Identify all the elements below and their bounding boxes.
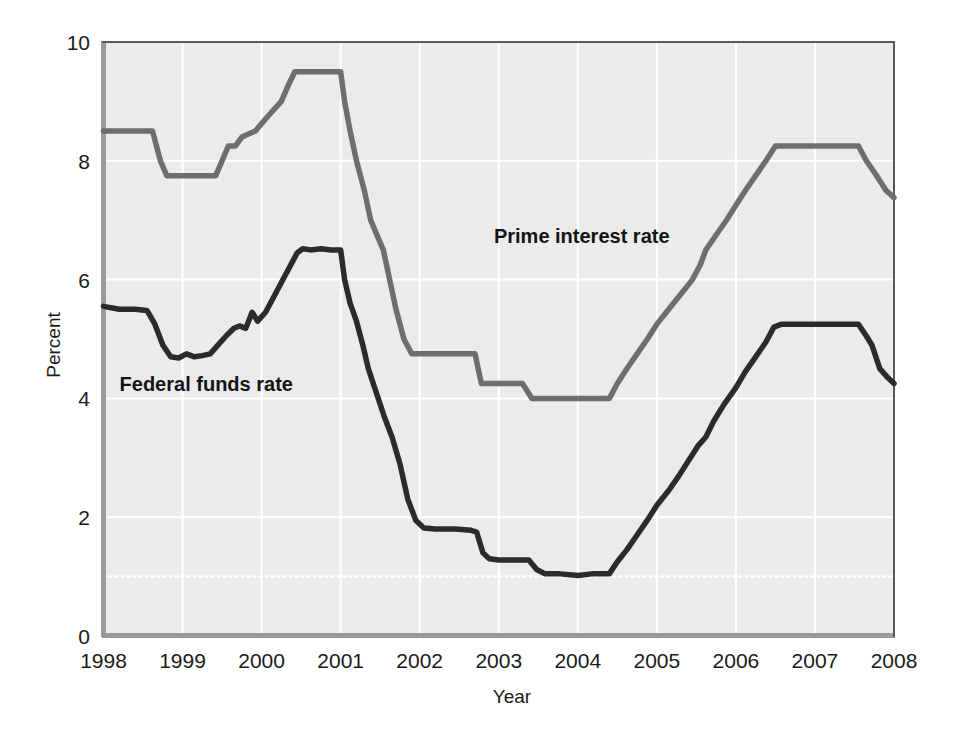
x-tick-label: 2001 [317,649,364,672]
interest-rates-line-chart: 0246810 19981999200020012002200320042005… [0,0,957,735]
y-tick-label: 6 [78,269,90,292]
y-tick-label: 10 [67,31,90,54]
x-tick-label: 2008 [871,649,918,672]
x-tick-label: 2004 [554,649,601,672]
x-tick-label: 2007 [792,649,839,672]
x-tick-label: 2002 [396,649,443,672]
x-tick-label: 1998 [80,649,127,672]
x-tick-label: 2005 [633,649,680,672]
y-tick-label: 0 [78,625,90,648]
x-tick-label: 2006 [713,649,760,672]
x-tick-label: 2000 [238,649,285,672]
x-tick-label: 2003 [475,649,522,672]
series-label-federal-funds-rate: Federal funds rate [120,373,293,395]
x-tick-labels: 1998199920002001200220032004200520062007… [80,649,917,672]
series-label-prime-interest-rate: Prime interest rate [494,225,670,247]
chart-figure: 0246810 19981999200020012002200320042005… [0,0,957,735]
x-axis-title: Year [493,686,532,707]
y-tick-label: 8 [78,150,90,173]
y-tick-labels: 0246810 [67,31,91,648]
y-tick-label: 4 [78,387,90,410]
y-axis-title: Percent [43,312,64,378]
x-tick-label: 1999 [159,649,206,672]
y-tick-label: 2 [78,506,90,529]
